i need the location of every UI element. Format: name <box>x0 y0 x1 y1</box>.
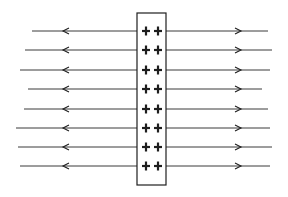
field-line-right <box>166 106 268 112</box>
field-line-right <box>166 47 272 53</box>
field-line-left <box>32 28 137 34</box>
field-line-left <box>18 144 137 150</box>
field-line-left <box>24 106 137 112</box>
charged-plate-field-diagram <box>0 0 288 197</box>
field-line-left <box>28 86 137 92</box>
field-line-left <box>25 47 137 53</box>
field-line-right <box>166 67 270 73</box>
field-line-left <box>20 67 137 73</box>
charged-plate <box>137 13 166 185</box>
field-line-right <box>166 86 262 92</box>
field-line-right <box>166 144 272 150</box>
field-line-right <box>166 163 270 169</box>
field-line-left <box>20 163 137 169</box>
field-line-right <box>166 125 270 131</box>
field-line-right <box>166 28 268 34</box>
field-line-left <box>16 125 137 131</box>
